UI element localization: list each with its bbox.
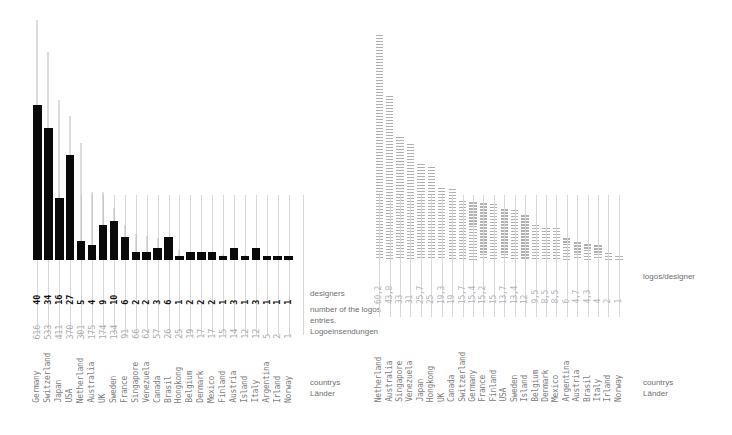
left-logo-value-text: 62	[142, 329, 151, 339]
right-country-label-text: Netherland	[375, 357, 383, 402]
left-designer-value-text: 16	[55, 295, 64, 305]
right-ratio-value: 31	[405, 256, 415, 304]
right-ratio-value: 4,3	[582, 256, 592, 304]
left-designer-value-text: 3	[252, 300, 261, 305]
left-country-label: Belgium	[185, 341, 196, 403]
left-logo-value-text: 533	[44, 325, 53, 339]
left-logo-value: 370	[65, 307, 76, 339]
left-logo-value: 134	[108, 307, 119, 339]
left-logo-value-text: 411	[55, 325, 64, 339]
right-country-label-text: Mexico	[552, 375, 560, 402]
left-logo-value: 17	[207, 307, 218, 339]
left-designer-value-text: 4	[88, 300, 97, 305]
left-country-label: Argentina	[261, 341, 272, 403]
left-logo-value: 12	[240, 307, 251, 339]
right-country-label-text: USA	[500, 388, 508, 402]
left-logo-value: 301	[76, 307, 87, 339]
left-designer-value: 3	[250, 275, 261, 305]
right-country-label: Austria	[572, 330, 582, 402]
right-country-label: Netherland	[374, 330, 384, 402]
right-ratio-value-text: 25,7	[417, 286, 425, 304]
right-country-label: Brasil	[582, 330, 592, 402]
left-logo-value-text: 91	[121, 329, 130, 339]
left-country-label: USA	[65, 341, 76, 403]
left-country-label-text: Sweden	[110, 376, 118, 403]
right-country-label: Germany	[468, 330, 478, 402]
designer-bar	[33, 105, 42, 260]
designer-bar	[153, 248, 162, 260]
designer-bar	[142, 252, 151, 260]
right-ratio-value-text: 2	[604, 299, 612, 304]
legend-countries-left-line2: Länder	[310, 389, 340, 400]
left-designer-value: 1	[174, 275, 185, 305]
right-ratio-value: 15,2	[478, 256, 488, 304]
left-country-label-text: Finland	[219, 371, 227, 403]
right-country-label: Sweden	[509, 330, 519, 402]
left-country-label: Japan	[54, 341, 65, 403]
right-country-label-text: Argentina	[563, 361, 571, 402]
right-country-label-text: Venezuela	[406, 361, 414, 402]
left-country-label: Norway	[283, 341, 294, 403]
left-designer-value-text: 9	[99, 300, 108, 305]
left-logo-value-text: 17	[208, 329, 217, 339]
right-ratio-value-text: 8,5	[542, 290, 550, 304]
designer-bar	[230, 248, 239, 260]
right-ratio-value: 13,7	[499, 256, 509, 304]
left-logo-value: 1	[283, 307, 294, 339]
designer-bar	[99, 225, 108, 260]
right-ratio-value: 19	[447, 256, 457, 304]
left-logo-value: 2	[272, 307, 283, 339]
left-country-label-text: Denmark	[197, 371, 205, 403]
right-country-label-text: Irland	[604, 375, 612, 402]
designer-bar	[186, 252, 195, 260]
left-logo-value: 17	[196, 307, 207, 339]
left-designer-value: 1	[261, 275, 272, 305]
left-logo-value: 66	[130, 307, 141, 339]
designer-bar	[208, 252, 217, 260]
left-logo-value: 12	[250, 307, 261, 339]
right-ratio-value: 13,4	[509, 256, 519, 304]
right-country-label-text: Italy	[594, 379, 602, 402]
right-chart-country-labels: NetherlandAustraliaSingaporeVenezuelaJap…	[374, 330, 624, 402]
left-country-label-text: Argentina	[263, 362, 271, 403]
left-chart-country-labels: GermanySwitzerlandJapanUSANetherlandAust…	[32, 341, 294, 403]
left-country-label: Island	[240, 341, 251, 403]
left-designer-value-text: 2	[197, 300, 206, 305]
left-designer-value: 40	[32, 275, 43, 305]
right-country-label: Argentina	[562, 330, 572, 402]
right-country-label: Denmark	[541, 330, 551, 402]
designer-bar	[132, 252, 141, 260]
left-designer-value: 10	[108, 275, 119, 305]
left-country-label-text: Japan	[55, 380, 63, 403]
right-ratio-value-text: 19	[448, 295, 456, 304]
left-chart-logo-values: 6165334113703011751741349166625726251917…	[32, 307, 294, 339]
left-logo-value-text: 175	[88, 325, 97, 339]
left-logo-value-text: 5	[263, 334, 272, 339]
right-chart-ratio-values: 60,243,8333125,72519,31915,715,415,21513…	[374, 256, 624, 304]
designer-bar	[77, 241, 86, 260]
right-country-label: Italy	[593, 330, 603, 402]
left-country-label-text: Switzerland	[44, 353, 52, 403]
left-logo-value-text: 301	[77, 325, 86, 339]
left-chart-panel: 40341627549106223612221313111 6165334113…	[0, 0, 366, 435]
legend-countries-right: countrys Länder	[643, 378, 673, 400]
left-designer-value: 1	[240, 275, 251, 305]
right-country-label-text: Canada	[448, 375, 456, 402]
left-logo-value: 14	[229, 307, 240, 339]
right-country-label-text: Norway	[615, 375, 623, 402]
left-designer-value-text: 2	[142, 300, 151, 305]
left-designer-value: 2	[185, 275, 196, 305]
right-country-label: Hongkong	[426, 330, 436, 402]
right-country-label-text: Germany	[469, 370, 477, 402]
designer-bar	[175, 256, 184, 260]
right-ratio-value-text: 15	[490, 295, 498, 304]
left-country-label: Irland	[272, 341, 283, 403]
left-designer-value: 2	[207, 275, 218, 305]
left-country-label: Germany	[32, 341, 43, 403]
left-country-label: Australia	[87, 341, 98, 403]
left-logo-value-text: 25	[175, 329, 184, 339]
right-country-label-text: Brasil	[584, 375, 592, 402]
designer-bar	[241, 256, 250, 260]
right-ratio-value: 60,2	[374, 256, 384, 304]
left-country-label-text: Hongkong	[175, 367, 183, 403]
